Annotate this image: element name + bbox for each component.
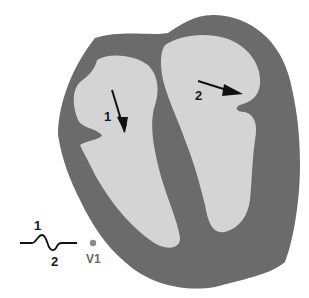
waveform-label-2: 2 [51, 254, 58, 269]
electrode-dot-icon [90, 240, 96, 246]
lead-label: V1 [86, 252, 101, 266]
waveform-label-1: 1 [34, 218, 41, 233]
vector-1-label: 1 [104, 109, 111, 124]
heart-diagram: 1 2 1 2 V1 [0, 0, 309, 298]
ecg-waveform [20, 235, 77, 250]
vector-2-label: 2 [195, 88, 202, 103]
